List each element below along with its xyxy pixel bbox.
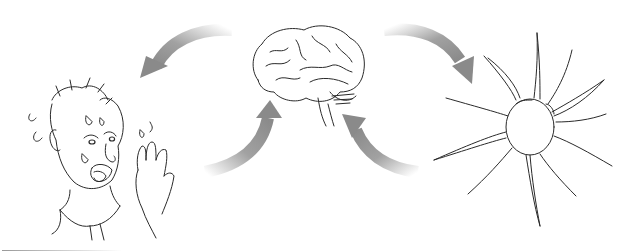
- neuron-illustration: [434, 33, 612, 226]
- neuron-soma: [506, 99, 554, 155]
- arrow-person-to-brain: [205, 100, 282, 172]
- arrowhead-up-left: [256, 100, 282, 118]
- diagram-canvas: [0, 0, 634, 252]
- arrow-brain-to-neuron: [384, 29, 474, 84]
- person-illustration: [29, 78, 174, 240]
- arrow-neuron-to-brain: [342, 114, 418, 172]
- bottom-rule: [2, 250, 122, 251]
- arrow-brain-to-person: [140, 30, 232, 78]
